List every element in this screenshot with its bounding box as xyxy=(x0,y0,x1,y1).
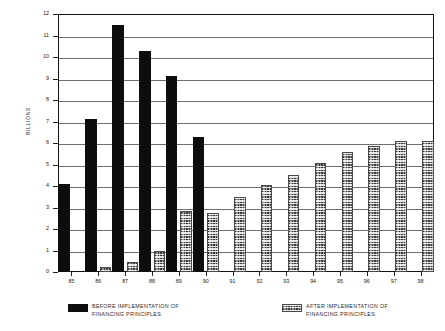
legend-label-after-line2: FINANCING PRINCIPLES xyxy=(306,311,375,317)
x-tick-mark xyxy=(367,272,368,276)
y-tick-mark xyxy=(53,251,58,252)
x-tick-label-93: 93 xyxy=(283,278,289,284)
plot-area xyxy=(58,14,434,272)
x-tick-label-87: 87 xyxy=(122,278,128,284)
x-tick-mark xyxy=(313,272,314,276)
x-tick-mark xyxy=(340,272,341,276)
y-tick-label: 4 xyxy=(46,182,49,188)
y-tick-label: 1 xyxy=(46,247,49,253)
gridline xyxy=(59,166,433,167)
gridline xyxy=(59,209,433,210)
x-tick-mark xyxy=(286,272,287,276)
y-tick-mark xyxy=(53,36,58,37)
x-tick-label-98: 98 xyxy=(418,278,424,284)
x-tick-mark xyxy=(152,272,153,276)
y-tick-label: 12 xyxy=(43,10,49,16)
gridline xyxy=(59,80,433,81)
x-tick-label-86: 86 xyxy=(95,278,101,284)
gray-hatched-swatch xyxy=(282,304,302,312)
x-tick-mark xyxy=(394,272,395,276)
legend-label-after-line1: AFTER IMPLEMENTATION OF xyxy=(306,303,388,309)
y-tick-mark xyxy=(53,165,58,166)
legend-label-before-line1: BEFORE IMPLEMENTATION OF xyxy=(92,303,179,309)
gridlines xyxy=(59,15,433,271)
y-tick-label: 9 xyxy=(46,75,49,81)
x-tick-label-90: 90 xyxy=(203,278,209,284)
x-tick-label-88: 88 xyxy=(149,278,155,284)
y-tick-mark xyxy=(53,14,58,15)
y-tick-label: 5 xyxy=(46,161,49,167)
y-tick-label: 11 xyxy=(43,32,49,38)
gridline xyxy=(59,101,433,102)
y-tick-label: 8 xyxy=(46,96,49,102)
bar-chart: BILLIONS 1211109876543210 85868788899091… xyxy=(0,0,445,331)
chart-legend: BEFORE IMPLEMENTATION OF FINANCING PRINC… xyxy=(0,303,445,329)
y-tick-label: 0 xyxy=(46,268,49,274)
x-tick-label-85: 85 xyxy=(68,278,74,284)
x-tick-label-97: 97 xyxy=(391,278,397,284)
black-solid-swatch xyxy=(68,304,88,312)
x-tick-label-89: 89 xyxy=(176,278,182,284)
y-tick-mark xyxy=(53,186,58,187)
y-tick-label: 7 xyxy=(46,118,49,124)
legend-label-before: BEFORE IMPLEMENTATION OF FINANCING PRINC… xyxy=(92,303,179,318)
y-tick-label: 10 xyxy=(43,53,49,59)
y-tick-label: 6 xyxy=(46,139,49,145)
gridline xyxy=(59,144,433,145)
gridline xyxy=(59,123,433,124)
y-tick-mark xyxy=(53,208,58,209)
x-tick-mark xyxy=(206,272,207,276)
x-tick-mark xyxy=(179,272,180,276)
y-tick-label: 3 xyxy=(46,204,49,210)
gridline xyxy=(59,58,433,59)
legend-item-before: BEFORE IMPLEMENTATION OF FINANCING PRINC… xyxy=(68,303,179,318)
x-tick-label-95: 95 xyxy=(337,278,343,284)
y-axis: 1211109876543210 xyxy=(0,0,58,331)
y-tick-mark xyxy=(53,57,58,58)
legend-label-before-line2: FINANCING PRINCIPLES xyxy=(92,311,161,317)
x-tick-label-92: 92 xyxy=(256,278,262,284)
gridline xyxy=(59,37,433,38)
legend-item-after: AFTER IMPLEMENTATION OF FINANCING PRINCI… xyxy=(282,303,388,318)
x-tick-mark xyxy=(421,272,422,276)
legend-label-after: AFTER IMPLEMENTATION OF FINANCING PRINCI… xyxy=(306,303,388,318)
x-tick-mark xyxy=(259,272,260,276)
y-tick-label: 2 xyxy=(46,225,49,231)
x-axis: 8586878889909192939495969798 xyxy=(58,272,434,290)
x-tick-mark xyxy=(125,272,126,276)
gridline xyxy=(59,230,433,231)
y-tick-mark xyxy=(53,100,58,101)
y-tick-mark xyxy=(53,122,58,123)
x-tick-mark xyxy=(98,272,99,276)
x-tick-mark xyxy=(233,272,234,276)
x-tick-label-96: 96 xyxy=(364,278,370,284)
y-tick-mark xyxy=(53,229,58,230)
y-tick-mark xyxy=(53,79,58,80)
gridline xyxy=(59,252,433,253)
x-tick-mark xyxy=(71,272,72,276)
x-tick-label-94: 94 xyxy=(310,278,316,284)
gridline xyxy=(59,187,433,188)
y-tick-mark xyxy=(53,143,58,144)
x-tick-label-91: 91 xyxy=(230,278,236,284)
